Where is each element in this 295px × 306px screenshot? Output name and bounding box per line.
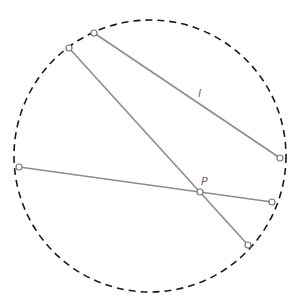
point-f [245, 242, 251, 248]
point-p [197, 189, 203, 195]
chord-DE [19, 167, 272, 202]
point-a [91, 30, 97, 36]
chord-BF [69, 48, 248, 245]
point-b [66, 45, 72, 51]
point-d [16, 164, 22, 170]
point-p-label: P [201, 175, 208, 188]
points [16, 30, 283, 248]
geometry-diagram: l P [0, 0, 295, 306]
line-l [94, 33, 280, 158]
dashed-circle [14, 20, 286, 292]
point-c [277, 155, 283, 161]
segments [19, 33, 280, 245]
line-l-label: l [198, 87, 201, 100]
point-e [269, 199, 275, 205]
